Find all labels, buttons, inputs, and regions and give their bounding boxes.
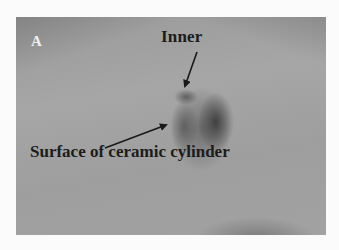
annotation-inner: Inner — [161, 27, 203, 47]
panel-label: A — [31, 33, 42, 50]
annotation-surface: Surface of ceramic cylinder — [30, 142, 230, 162]
inner-arrow-icon — [185, 52, 197, 86]
